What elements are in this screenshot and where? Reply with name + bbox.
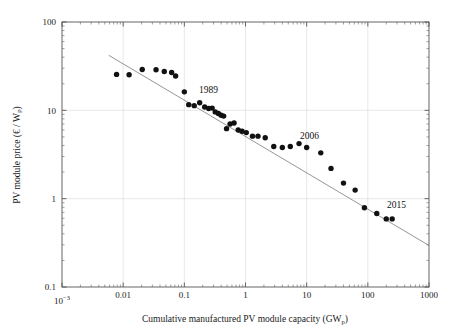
data-point (186, 102, 191, 107)
y-tick-label: 0.1 (45, 282, 56, 292)
svg-text:Cumulative manufactured PV mod: Cumulative manufactured PV module capaci… (142, 314, 348, 325)
data-point (280, 145, 285, 150)
figure-container: 10−30.010.11101001000 0.1110100 19892006… (0, 0, 449, 335)
svg-text:PV module price (€ / WP): PV module price (€ / WP) (12, 106, 23, 204)
data-point (126, 72, 131, 77)
data-point (114, 72, 119, 77)
plot-background (0, 0, 449, 335)
x-tick-label: 1000 (420, 290, 439, 300)
data-point (153, 67, 158, 72)
data-point (244, 130, 249, 135)
data-point (374, 211, 379, 216)
x-axis-title: Cumulative manufactured PV module capaci… (142, 314, 348, 325)
data-point (182, 89, 187, 94)
data-point (271, 144, 276, 149)
y-axis-title: PV module price (€ / WP) (12, 106, 23, 204)
y-tick-label: 1 (52, 194, 57, 204)
data-point (162, 69, 167, 74)
data-point (263, 135, 268, 140)
data-point (197, 100, 202, 105)
data-point (352, 187, 357, 192)
data-point (318, 150, 323, 155)
annotation-label: 1989 (199, 85, 218, 95)
y-tick-label: 100 (43, 17, 57, 27)
x-tick-label: 100 (361, 290, 375, 300)
data-point (304, 145, 309, 150)
x-tick-label: 1 (243, 290, 248, 300)
annotation-label: 2015 (387, 200, 406, 210)
data-point (384, 216, 389, 221)
x-tick-label: 0.1 (179, 290, 190, 300)
x-tick-label: 0.01 (115, 290, 131, 300)
data-point (255, 133, 260, 138)
x-tick-label: 10 (302, 290, 312, 300)
data-point (221, 113, 226, 118)
data-point (192, 103, 197, 108)
data-point (288, 144, 293, 149)
data-point (224, 126, 229, 131)
pv-price-experience-curve-chart: 10−30.010.11101001000 0.1110100 19892006… (0, 0, 449, 335)
data-point (341, 180, 346, 185)
annotation-label: 2006 (300, 131, 319, 141)
data-point (231, 120, 236, 125)
data-point (362, 205, 367, 210)
data-point (173, 73, 178, 78)
y-tick-label: 10 (47, 106, 57, 116)
data-point (389, 216, 394, 221)
data-point (140, 67, 145, 72)
data-point (250, 133, 255, 138)
data-point (296, 141, 301, 146)
data-point (328, 166, 333, 171)
